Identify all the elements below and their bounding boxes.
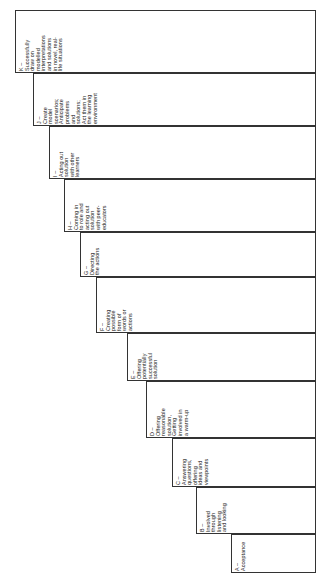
step-box-k: K –Successfullydraw onmodelledinterpreta…	[15, 10, 316, 73]
step-text-line: Acceptance	[241, 538, 247, 571]
step-text-line: learners	[75, 130, 81, 177]
step-text-line: the actions	[95, 236, 101, 275]
step-box-e: E –Offeringpotentiallysuccessfulsolution	[127, 333, 316, 381]
step-label-g: G –Directingthe actions	[84, 236, 101, 275]
step-label-a: A –Acceptance	[235, 538, 246, 571]
step-label-c: C –Answeringquestions,offeringideas andv…	[176, 442, 210, 485]
step-label-e: E –Offeringpotentiallysuccessfulsolution	[131, 337, 159, 379]
staircase-diagram: K –Successfullydraw onmodelledinterpreta…	[0, 0, 330, 575]
step-text-line: solution	[153, 337, 159, 379]
step-text-line: a warm-up	[184, 385, 190, 436]
step-text-line: life situations	[58, 14, 64, 71]
step-box-j: J –Createmodelscenarios;Anticipateproble…	[33, 73, 316, 126]
step-label-b: B –Involvedthroughlisteningand looking	[200, 491, 228, 532]
step-label-k: K –Successfullydraw onmodelledinterpreta…	[19, 14, 64, 71]
step-box-a: A –Acceptance	[231, 534, 316, 573]
step-box-b: B –Involvedthroughlisteningand looking	[196, 487, 316, 534]
step-text-line: viewpoints	[204, 442, 210, 485]
step-box-d: D –Offeringreasonablesolution,Gettinginv…	[146, 381, 316, 438]
step-label-j: J –Createmodelscenarios;Anticipateproble…	[37, 77, 99, 124]
step-label-h: H –Coming into role andacting outsolutio…	[68, 183, 107, 230]
step-text-line: educators	[102, 183, 108, 230]
step-box-f: F –Creatingpossibleform ofwords oraction…	[96, 277, 316, 333]
step-text-line: actions	[128, 281, 134, 331]
step-box-g: G –Directingthe actions	[80, 232, 316, 277]
step-text-line: and looking	[222, 491, 228, 532]
step-label-d: D –Offeringreasonablesolution,Gettinginv…	[150, 385, 189, 436]
step-box-c: C –Answeringquestions,offeringideas andv…	[172, 438, 316, 487]
step-label-i: I –Acting outsolutionwith otherlearners	[53, 130, 81, 177]
step-box-i: I –Acting outsolutionwith otherlearners	[49, 126, 316, 179]
step-box-h: H –Coming into role andacting outsolutio…	[64, 179, 316, 232]
step-label-f: F –Creatingpossibleform ofwords oraction…	[100, 281, 134, 331]
step-text-line: environment	[93, 77, 99, 124]
